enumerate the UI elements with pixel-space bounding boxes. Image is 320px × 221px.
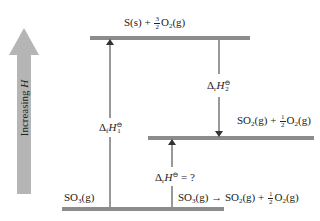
label-drh2: ΔrH⊖2 <box>207 80 229 91</box>
level-bar-middle <box>148 136 314 140</box>
axis-label-increasing-h: Increasing H <box>18 80 30 137</box>
label-bottom-level: SO3(g) <box>64 192 94 203</box>
label-middle-level: SO2(g) + 12O2(g) <box>237 114 311 129</box>
label-top-level: S(s) + 32O2(g) <box>124 16 185 31</box>
label-dfh1: ΔfH⊖1 <box>99 122 121 133</box>
diagram-canvas <box>0 0 320 221</box>
label-drh-unknown: ΔrH⊖ = ? <box>155 172 195 183</box>
reaction-arrow-icon: → <box>211 191 222 203</box>
level-bar-top <box>90 36 250 40</box>
level-bar-bottom <box>62 207 224 211</box>
reaction-equation: SO3(g) → SO2(g) + 12O2(g) <box>178 191 299 206</box>
